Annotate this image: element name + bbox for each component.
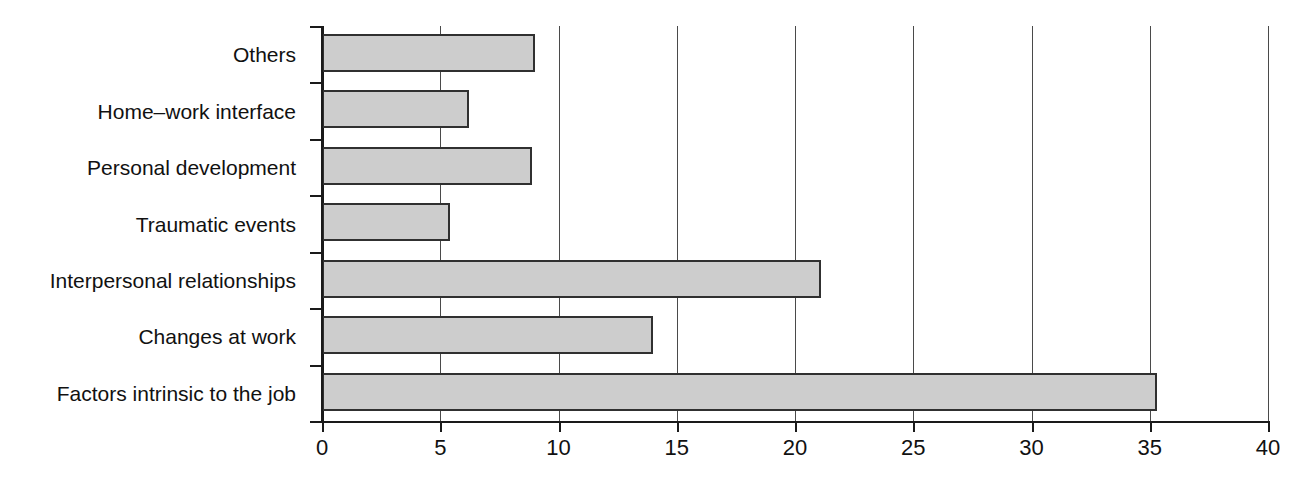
bar-band (322, 139, 1268, 195)
bar[interactable] (322, 90, 469, 128)
x-axis-tick-15 (677, 421, 679, 432)
x-axis-tick-0 (322, 421, 324, 432)
category-label: Traumatic events (0, 214, 296, 235)
x-axis-tick-label: 35 (1138, 437, 1162, 459)
x-axis-tick-label: 5 (434, 437, 446, 459)
x-axis-tick-label: 30 (1019, 437, 1043, 459)
x-axis-tick-20 (795, 421, 797, 432)
bar[interactable] (322, 147, 532, 185)
bar[interactable] (322, 34, 535, 72)
category-label: Home–work interface (0, 101, 296, 122)
gridline-40 (1268, 26, 1269, 421)
category-label: Others (0, 44, 296, 65)
x-axis-tick-35 (1150, 421, 1152, 432)
x-axis-tick-5 (440, 421, 442, 432)
category-label: Personal development (0, 157, 296, 178)
y-axis-tick (310, 365, 322, 367)
bar[interactable] (322, 203, 450, 241)
bar-band (322, 365, 1268, 421)
x-axis-tick-25 (913, 421, 915, 432)
bar-band (322, 308, 1268, 364)
category-label: Interpersonal relationships (0, 270, 296, 291)
bar-band (322, 26, 1268, 82)
x-axis-tick-label: 20 (783, 437, 807, 459)
x-axis-tick-label: 0 (316, 437, 328, 459)
y-axis-tick (310, 421, 322, 423)
bar-band (322, 195, 1268, 251)
bars-layer (322, 26, 1268, 421)
y-axis-line (321, 26, 323, 422)
category-label: Factors intrinsic to the job (0, 383, 296, 404)
x-axis-tick-10 (559, 421, 561, 432)
x-axis-tick-label: 25 (901, 437, 925, 459)
y-axis-tick (310, 195, 322, 197)
x-axis-tick-label: 15 (665, 437, 689, 459)
bar[interactable] (322, 260, 821, 298)
bar-band (322, 252, 1268, 308)
category-label: Changes at work (0, 326, 296, 347)
bar-band (322, 82, 1268, 138)
bar[interactable] (322, 316, 653, 354)
y-axis-tick (310, 139, 322, 141)
y-axis-tick (310, 252, 322, 254)
x-axis-tick-40 (1268, 421, 1270, 432)
x-axis-tick-label: 40 (1256, 437, 1280, 459)
y-axis-tick (310, 308, 322, 310)
x-axis-tick-30 (1032, 421, 1034, 432)
bar-chart: OthersHome–work interfacePersonal develo… (0, 0, 1298, 484)
y-axis-tick (310, 26, 322, 28)
x-axis-tick-label: 10 (546, 437, 570, 459)
y-axis-tick (310, 82, 322, 84)
bar[interactable] (322, 373, 1157, 411)
